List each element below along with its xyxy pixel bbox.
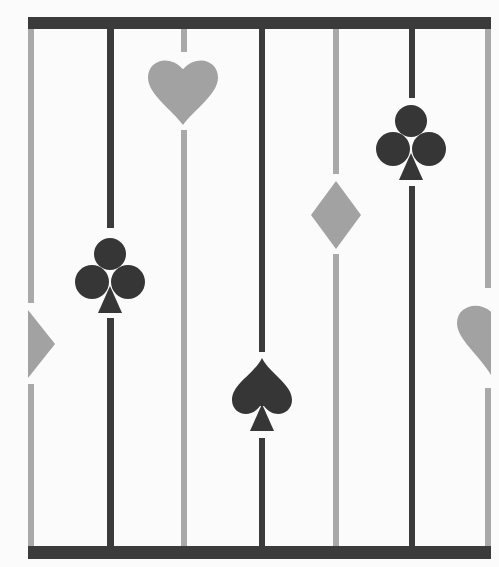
- diamond-icon: [311, 181, 361, 249]
- card-suits-pattern: [0, 0, 499, 567]
- club-icon: [376, 105, 446, 180]
- vertical-line-segment: [181, 29, 187, 52]
- vertical-line-segment: [409, 186, 415, 546]
- club-left-lobe: [376, 132, 410, 166]
- club-right-lobe: [111, 265, 145, 299]
- club-icon: [75, 238, 145, 313]
- top-bar: [28, 17, 491, 29]
- vertical-line-segment: [259, 29, 265, 352]
- vertical-line-segment: [333, 29, 339, 174]
- half-diamond-icon: [28, 310, 55, 378]
- club-right-lobe: [412, 132, 446, 166]
- vertical-line-segment: [107, 318, 114, 546]
- bottom-bar: [28, 546, 491, 559]
- vertical-line-segment: [28, 384, 34, 546]
- vertical-line-segment: [333, 254, 339, 546]
- vertical-line-segment: [409, 29, 415, 98]
- vertical-line-segment: [259, 438, 265, 546]
- club-left-lobe: [75, 265, 109, 299]
- vertical-line-segment: [181, 130, 187, 546]
- heart-icon: [148, 60, 218, 125]
- vertical-line-segment: [485, 29, 491, 288]
- vertical-line-segment: [28, 29, 34, 303]
- vertical-line-segment: [485, 388, 491, 546]
- half-heart-icon: [457, 306, 491, 375]
- vertical-line-segment: [107, 29, 114, 228]
- spade-icon: [232, 358, 292, 431]
- club-top-lobe: [395, 105, 427, 137]
- club-top-lobe: [94, 238, 126, 270]
